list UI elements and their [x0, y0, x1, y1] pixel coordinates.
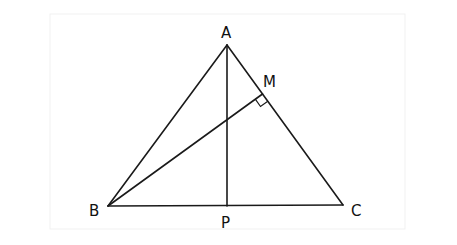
altitude-BM [108, 94, 263, 206]
right-angle-marker [255, 99, 267, 106]
point-label-M: M [263, 73, 276, 91]
side-CA [227, 45, 343, 205]
point-label-C: C [351, 202, 361, 220]
point-label-P: P [221, 214, 230, 232]
point-label-A: A [221, 24, 232, 42]
triangle-diagram: A M B P C [0, 0, 457, 245]
point-label-B: B [89, 202, 99, 220]
side-AB [108, 45, 227, 206]
side-BC [108, 205, 343, 206]
